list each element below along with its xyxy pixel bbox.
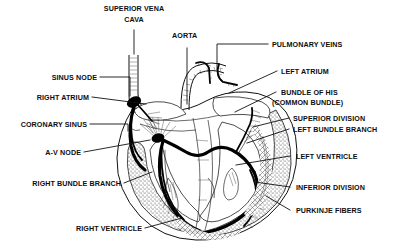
leader-left-atrium bbox=[229, 71, 277, 93]
heart-outline bbox=[117, 92, 297, 240]
leader-left-bundle-branch bbox=[247, 129, 289, 143]
label-superior-vena-cava-line2: CAVA bbox=[67, 15, 200, 25]
label-coronary-sinus: CORONARY SINUS bbox=[5, 120, 87, 130]
leader-purkinje-fibers bbox=[266, 196, 290, 210]
right-ventricle-cavity bbox=[150, 140, 200, 222]
label-av-node: A-V NODE bbox=[5, 148, 81, 158]
coronary-sinus-opening bbox=[130, 128, 140, 131]
label-sinus-node: SINUS NODE bbox=[6, 73, 97, 83]
label-superior-division: SUPERIOR DIVISION bbox=[293, 114, 365, 124]
superior-vena-cava-vessel bbox=[129, 55, 144, 109]
pulmonary-vessels bbox=[196, 61, 237, 87]
right-ventricle-trabeculae bbox=[166, 178, 178, 214]
leader-bundle-of-his bbox=[235, 92, 276, 112]
left-ventricle-cavity bbox=[200, 122, 261, 222]
leader-av-node bbox=[84, 140, 150, 152]
atria-and-valve-plane bbox=[134, 97, 270, 131]
aorta-vessel bbox=[181, 63, 226, 110]
sinus-node-marker bbox=[125, 94, 160, 170]
right-bundle-branch-fibers bbox=[160, 144, 184, 224]
left-ventricle-wall bbox=[203, 110, 291, 236]
label-inferior-division: INFERIOR DIVISION bbox=[296, 183, 365, 193]
label-left-bundle-branch: LEFT BUNDLE BRANCH bbox=[293, 125, 377, 135]
papillary-muscles bbox=[208, 168, 238, 200]
leader-right-bundle-branch bbox=[124, 172, 152, 183]
interventricular-septum bbox=[193, 118, 213, 230]
label-left-atrium: LEFT ATRIUM bbox=[281, 67, 329, 77]
label-aorta: AORTA bbox=[172, 31, 197, 41]
label-purkinje-fibers: PURKINJE FIBERS bbox=[296, 206, 362, 216]
label-left-ventricle: LEFT VENTRICLE bbox=[296, 152, 358, 162]
leader-right-atrium bbox=[92, 97, 146, 104]
label-pulmonary-veins: PULMONARY VEINS bbox=[272, 40, 342, 50]
label-right-bundle-branch: RIGHT BUNDLE BRANCH bbox=[7, 179, 121, 189]
bundle-of-his bbox=[159, 140, 257, 233]
av-node-marker bbox=[140, 117, 176, 144]
leader-left-ventricle bbox=[236, 156, 290, 165]
leader-right-ventricle bbox=[145, 218, 182, 228]
label-right-atrium: RIGHT ATRIUM bbox=[5, 93, 89, 103]
label-bundle-of-his-line1: BUNDLE OF HIS bbox=[281, 88, 338, 98]
label-superior-vena-cava-line1: SUPERIOR VENA bbox=[67, 4, 200, 14]
leader-superior-division bbox=[253, 118, 289, 127]
label-bundle-of-his-line2: (COMMON BUNDLE) bbox=[272, 98, 343, 108]
purkinje-fiber-network-right bbox=[176, 216, 244, 240]
label-right-ventricle: RIGHT VENTRICLE bbox=[9, 224, 142, 234]
purkinje-fiber-network bbox=[244, 124, 272, 217]
right-ventricle-wall bbox=[127, 142, 199, 233]
leader-coronary-sinus bbox=[90, 124, 128, 131]
leader-sinus-node bbox=[100, 77, 130, 96]
leader-inferior-division bbox=[255, 182, 290, 187]
cardiac-conduction-diagram: SUPERIOR VENA CAVA AORTA PULMONARY VEINS… bbox=[0, 0, 393, 248]
leader-pulmonary-veins bbox=[217, 44, 268, 70]
left-bundle-branch-fibers bbox=[236, 108, 266, 228]
right-atrial-fiber-spray bbox=[146, 112, 162, 133]
